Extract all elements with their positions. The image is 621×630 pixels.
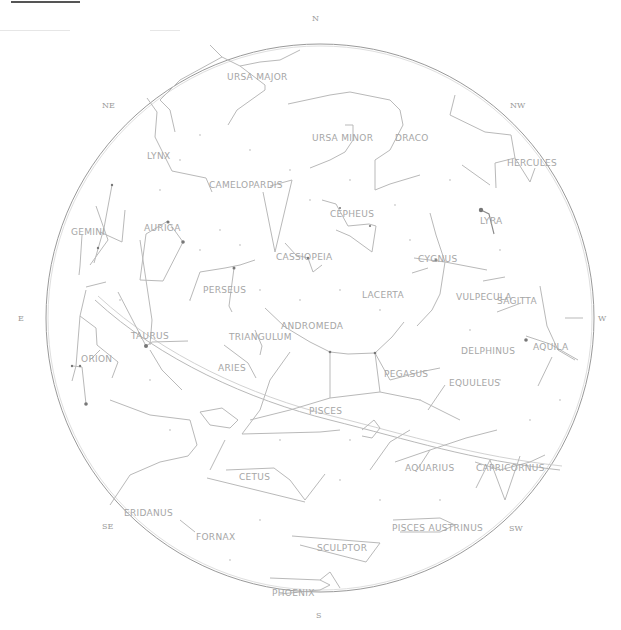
compass-ne: NE [102,101,115,110]
label-aquila: AQUILA [533,342,569,352]
label-phoenix: PHOENIX [272,588,315,598]
label-fornax: FORNAX [196,532,235,542]
label-cassiopeia: CASSIOPEIA [276,252,333,262]
label-gemini: GEMINI [71,227,105,237]
compass-se: SE [102,522,113,531]
compass-nw: NW [510,101,526,110]
label-lyra: LYRA [480,216,503,226]
label-sculptor: SCULPTOR [317,543,367,553]
label-taurus: TAURUS [130,331,169,341]
label-cetus: CETUS [239,472,270,482]
compass-sw: SW [509,524,523,533]
label-pisces: PISCES [309,406,342,416]
compass-s: S [316,611,321,620]
label-capricornus: CAPRICORNUS [476,463,545,473]
label-aquarius: AQUARIUS [405,463,454,473]
label-cygnus: CYGNUS [418,254,457,264]
label-andromeda: ANDROMEDA [281,321,344,331]
label-perseus: PERSEUS [203,285,246,295]
compass-e: E [18,314,24,323]
label-draco: DRACO [395,133,429,143]
label-triangulum: TRIANGULUM [228,332,292,342]
label-camelopardis: CAMELOPARDIS [209,180,283,190]
label-lacerta: LACERTA [362,290,404,300]
label-equuleus: EQUULEUS [449,378,500,388]
label-cepheus: CEPHEUS [330,209,374,219]
label-delphinus: DELPHINUS [461,346,515,356]
compass-labels: N NE NW E W SE SW S [18,14,607,620]
constellation-labels: URSA MAJOR URSA MINOR DRACO LYNX CAMELOP… [71,72,569,598]
compass-n: N [312,14,319,23]
label-pisces-austrinus: PISCES AUSTRINUS [392,523,483,533]
star-chart: N NE NW E W SE SW S URSA MAJOR URSA MINO… [0,0,621,630]
compass-w: W [598,314,607,323]
label-hercules: HERCULES [507,158,557,168]
label-aries: ARIES [218,363,246,373]
label-eridanus: ERIDANUS [124,508,173,518]
label-ursa-major: URSA MAJOR [227,72,288,82]
label-auriga: AURIGA [144,223,181,233]
label-orion: ORION [81,354,112,364]
label-ursa-minor: URSA MINOR [312,133,373,143]
label-lynx: LYNX [147,151,170,161]
label-sagitta: SAGITTA [497,296,537,306]
label-pegasus: PEGASUS [384,369,428,379]
